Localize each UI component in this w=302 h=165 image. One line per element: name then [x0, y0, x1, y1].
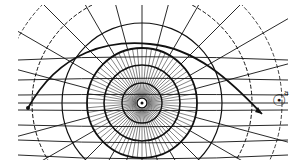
diagram-canvas: ☉ a — [0, 0, 302, 165]
polar-grid-figure — [0, 0, 302, 165]
sun-superscript-label: a — [284, 89, 289, 97]
